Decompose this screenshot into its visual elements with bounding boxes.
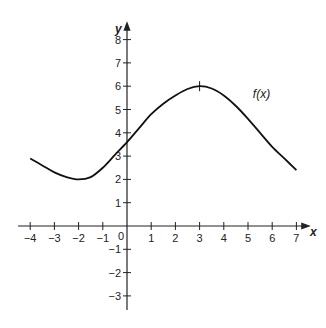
y-tick-label: 6 (115, 80, 121, 92)
function-graph: −4−3−2−112345670x −3−2−112345678y f(x) (0, 0, 326, 328)
function-label: f(x) (253, 87, 270, 101)
x-axis-name: x (309, 225, 318, 239)
x-tick-label: 7 (293, 232, 299, 244)
y-axis-name: y (114, 22, 123, 36)
y-tick-label: −3 (108, 290, 121, 302)
y-tick-label: −1 (108, 243, 121, 255)
annotations: f(x) (200, 81, 271, 101)
y-tick-label: 4 (115, 127, 121, 139)
x-tick-label: 5 (245, 232, 251, 244)
y-tick-label: −2 (108, 267, 121, 279)
x-tick-label: −2 (72, 232, 85, 244)
y-tick-label: 1 (115, 197, 121, 209)
x-tick-label: 4 (221, 232, 227, 244)
y-tick-label: 7 (115, 57, 121, 69)
x-tick-label: 1 (148, 232, 154, 244)
x-tick-label: 2 (172, 232, 178, 244)
x-tick-label: −4 (24, 232, 37, 244)
origin-label: 0 (118, 230, 124, 242)
x-tick-label: −3 (48, 232, 61, 244)
y-tick-label: 5 (115, 104, 121, 116)
x-tick-label: 6 (269, 232, 275, 244)
x-tick-label: −1 (97, 232, 110, 244)
y-tick-label: 2 (115, 173, 121, 185)
x-axis: −4−3−2−112345670x (18, 222, 318, 244)
y-axis: −3−2−112345678y (108, 22, 131, 310)
x-tick-label: 3 (197, 232, 203, 244)
